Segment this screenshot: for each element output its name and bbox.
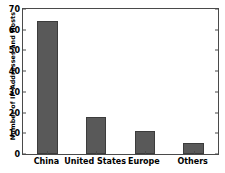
y-tick-label: 20: [9, 108, 20, 117]
y-tick-mark: [215, 9, 218, 10]
y-tick-label: 60: [9, 25, 20, 34]
y-tick-mark: [23, 91, 26, 92]
x-tick-label: Others: [177, 157, 207, 166]
plot-area: 010203040506070: [22, 8, 219, 155]
x-tick-mark: [194, 151, 195, 154]
x-tick-mark: [47, 151, 48, 154]
y-tick-mark: [23, 112, 26, 113]
x-tick-mark: [96, 151, 97, 154]
y-tick-label: 30: [9, 87, 20, 96]
y-tick-mark: [215, 50, 218, 51]
y-tick-label: 40: [9, 67, 20, 76]
y-tick-mark: [215, 154, 218, 155]
y-tick-mark: [215, 29, 218, 30]
x-tick-label: United States: [64, 157, 126, 166]
bar-chart: Number of IP Addresses and Hosts 0102030…: [0, 0, 225, 173]
y-tick-mark: [215, 112, 218, 113]
bar-united-states: [86, 117, 106, 154]
y-tick-mark: [23, 71, 26, 72]
y-tick-mark: [215, 91, 218, 92]
y-tick-mark: [23, 29, 26, 30]
y-tick-mark: [23, 9, 26, 10]
y-tick-label: 70: [9, 5, 20, 14]
y-tick-mark: [215, 71, 218, 72]
y-tick-mark: [23, 50, 26, 51]
y-tick-mark: [23, 154, 26, 155]
x-tick-mark: [145, 151, 146, 154]
y-tick-label: 50: [9, 46, 20, 55]
bar-china: [37, 21, 57, 154]
x-tick-label: China: [34, 157, 59, 166]
x-tick-label: Europe: [128, 157, 160, 166]
y-tick-label: 10: [9, 129, 20, 138]
y-tick-mark: [215, 133, 218, 134]
y-tick-label: 0: [14, 150, 20, 159]
y-tick-mark: [23, 133, 26, 134]
